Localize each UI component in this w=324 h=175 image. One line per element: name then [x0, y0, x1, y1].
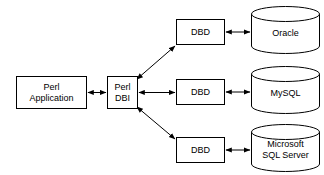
connector-dbi-to-dbd-oracle [137, 46, 175, 79]
node-dbd-oracle-shape[interactable] [177, 20, 225, 45]
diagram-canvas: Perl Application Perl DBI DBD DBD DBD Or… [0, 0, 324, 175]
node-mssql-db-shape[interactable] [252, 125, 320, 172]
node-dbd-mssql-shape[interactable] [177, 138, 225, 163]
node-perl-application-shape[interactable] [17, 77, 87, 109]
node-mysql-db-shape[interactable] [252, 67, 320, 114]
node-oracle-db-shape[interactable] [252, 7, 320, 54]
connector-dbi-to-dbd-mssql [137, 107, 175, 139]
node-perl-dbi-shape[interactable] [108, 77, 138, 109]
node-dbd-mysql-shape[interactable] [177, 80, 225, 105]
diagram-vector-layer [0, 0, 324, 175]
